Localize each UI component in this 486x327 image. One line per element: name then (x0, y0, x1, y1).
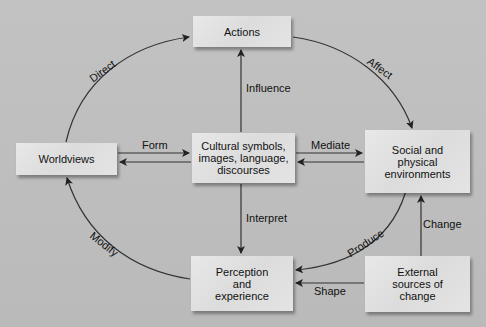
node-perception-line3: experience (215, 290, 269, 302)
node-cultural-line1: Cultural symbols, (199, 140, 289, 152)
edge-affect (293, 37, 412, 128)
node-social-line1: Social and (384, 144, 450, 156)
diagram-canvas: Actions Worldviews Cultural symbols, ima… (0, 0, 486, 327)
node-worldviews-label: Worldviews (38, 153, 94, 165)
label-form: Form (142, 139, 168, 151)
node-perception-line2: and (215, 278, 269, 290)
node-perception-line1: Perception (215, 266, 269, 278)
node-external: External sources of change (365, 256, 470, 312)
node-external-line3: change (392, 290, 443, 302)
node-social-line3: environments (384, 168, 450, 180)
label-mediate: Mediate (311, 139, 350, 151)
edge-direct (66, 37, 189, 142)
node-actions: Actions (193, 16, 291, 47)
node-cultural-line2: images, language, (199, 152, 289, 164)
node-worldviews: Worldviews (16, 143, 117, 175)
label-shape: Shape (314, 285, 346, 297)
label-influence: Influence (246, 82, 291, 94)
edge-modify (67, 178, 190, 279)
node-external-line2: sources of (392, 278, 443, 290)
label-interpret: Interpret (246, 212, 287, 224)
node-cultural-line3: discourses (199, 164, 289, 176)
label-change: Change (423, 218, 462, 230)
node-external-line1: External (392, 266, 443, 278)
node-actions-label: Actions (224, 26, 260, 38)
node-social: Social and physical environments (365, 130, 470, 193)
node-social-line2: physical (384, 156, 450, 168)
node-cultural: Cultural symbols, images, language, disc… (192, 133, 295, 183)
node-perception: Perception and experience (191, 256, 293, 311)
